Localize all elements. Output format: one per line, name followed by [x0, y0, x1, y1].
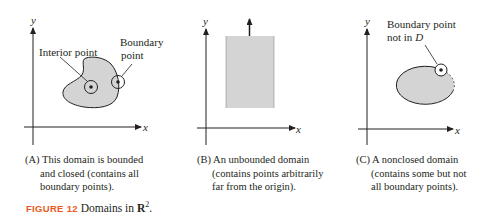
boundary-point-dot: [116, 80, 120, 84]
boundary-point-label-1: Boundary point: [387, 18, 456, 30]
caption-c-line-2: (contains some but not: [356, 167, 466, 181]
x-axis-label: x: [454, 124, 460, 136]
excluded-boundary-point-dot: [439, 68, 443, 72]
caption-c: (C) A nonclosed domain (contains some bu…: [356, 153, 466, 194]
boundary-point-label-2: point: [121, 49, 144, 61]
caption-c-line-3: all boundary points).: [356, 180, 466, 194]
figure-caption: FIGURE 12 Domains in R2.: [26, 200, 152, 214]
caption-b: (B) An unbounded domain (contains points…: [197, 153, 323, 194]
caption-b-line-1: (B) An unbounded domain: [197, 153, 323, 167]
interior-point-dot: [89, 85, 93, 89]
x-axis-label: x: [295, 123, 301, 135]
boundary-point-label-1: Boundary: [120, 36, 164, 48]
figure-number: FIGURE 12: [26, 203, 78, 214]
bounded-closed-domain: [63, 57, 119, 108]
boundary-point-label-2: not in D: [387, 31, 423, 43]
caption-b-line-3: far from the origin).: [197, 180, 323, 194]
y-axis-label: y: [364, 15, 370, 27]
caption-a-line-3: boundary points).: [25, 180, 143, 194]
panel-b-diagram: y x: [197, 15, 301, 145]
y-axis-label: y: [30, 14, 36, 26]
y-axis-label: y: [202, 15, 208, 27]
caption-a-line-2: and closed (contains all: [25, 167, 143, 181]
figure-title-end: .: [149, 202, 152, 214]
caption-c-line-1: (C) A nonclosed domain: [356, 153, 466, 167]
panel-c-diagram: y x Boundary point not in D: [358, 15, 460, 145]
interior-point-label: Interior point: [39, 46, 97, 58]
panel-a-diagram: y x Interior point Boundary point: [24, 14, 164, 145]
x-axis-label: x: [142, 121, 148, 133]
caption-a: (A) This domain is bounded and closed (c…: [25, 153, 143, 194]
figure-title: Domains in: [81, 202, 137, 214]
figure-title-math: R: [137, 202, 145, 214]
caption-b-line-2: (contains points arbitrarily: [197, 167, 323, 181]
caption-a-line-1: (A) This domain is bounded: [25, 153, 143, 167]
leader-line: [425, 45, 437, 64]
boundary-leader-line: [122, 64, 132, 76]
unbounded-domain: [226, 36, 274, 108]
